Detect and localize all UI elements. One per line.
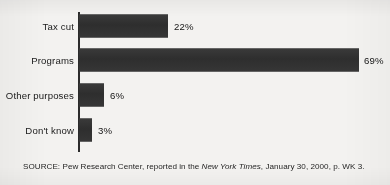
bar-category-label: Other purposes xyxy=(6,90,74,101)
bar-value-label: 22% xyxy=(174,21,194,32)
bar-row: Other purposes 6% xyxy=(0,78,390,112)
bar-rect xyxy=(79,84,104,107)
bar-rect xyxy=(79,15,168,38)
plot-area: Tax cut 22% Programs 69% Other purposes … xyxy=(0,0,390,156)
bar-row: Tax cut 22% xyxy=(0,9,390,43)
bar-category-label: Tax cut xyxy=(43,21,74,32)
bar-category-label: Don't know xyxy=(25,125,74,136)
chart-title-clipped xyxy=(0,0,390,7)
bar-value-label: 3% xyxy=(98,125,112,136)
bar-rect xyxy=(79,49,359,72)
source-prefix: SOURCE: Pew Research Center, reported in… xyxy=(23,162,202,171)
source-publication: New York Times xyxy=(202,162,261,171)
bar-rect xyxy=(79,119,92,142)
bar-value-label: 6% xyxy=(110,90,124,101)
bar-category-label: Programs xyxy=(31,55,74,66)
bar-row: Don't know 3% xyxy=(0,113,390,147)
bar-row: Programs 69% xyxy=(0,43,390,77)
bar-value-label: 69% xyxy=(364,55,384,66)
source-suffix: , January 30, 2000, p. WK 3. xyxy=(261,162,365,171)
source-note: SOURCE: Pew Research Center, reported in… xyxy=(23,162,365,171)
chart-figure: Tax cut 22% Programs 69% Other purposes … xyxy=(0,0,390,185)
